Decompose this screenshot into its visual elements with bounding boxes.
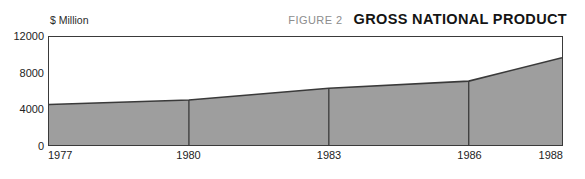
y-axis-tick-label: 12000 bbox=[0, 30, 44, 42]
x-axis-tick-label: 1980 bbox=[176, 149, 200, 161]
figure-number-label: FIGURE 2 bbox=[288, 14, 342, 26]
x-axis-tick-label: 1983 bbox=[317, 149, 341, 161]
area-chart-svg bbox=[49, 37, 562, 145]
x-axis-tick-label: 1986 bbox=[457, 149, 481, 161]
y-axis-unit-label: $ Million bbox=[50, 14, 89, 26]
y-axis-tick-label: 4000 bbox=[0, 103, 44, 115]
x-axis-tick-label: 1977 bbox=[48, 149, 72, 161]
plot-area bbox=[48, 36, 563, 146]
y-axis-tick-label: 8000 bbox=[0, 67, 44, 79]
page-title: GROSS NATIONAL PRODUCT bbox=[354, 11, 567, 27]
chart-header: FIGURE 2 GROSS NATIONAL PRODUCT bbox=[288, 11, 567, 27]
figure-gross-national-product: FIGURE 2 GROSS NATIONAL PRODUCT $ Millio… bbox=[0, 0, 585, 179]
x-axis: 1977 1980 1983 1986 1988 bbox=[0, 149, 585, 169]
x-axis-tick-label: 1988 bbox=[539, 149, 563, 161]
